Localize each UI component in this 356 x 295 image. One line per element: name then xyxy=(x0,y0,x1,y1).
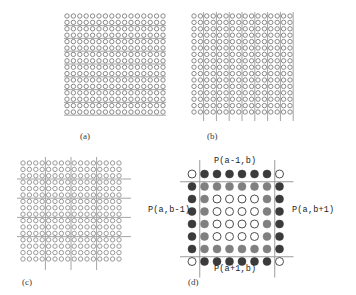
panel-d-caption: (d) xyxy=(188,277,199,287)
panel-a-caption: (a) xyxy=(80,131,90,141)
label-p-a-minus-1-b: P(a-1,b) xyxy=(214,156,256,166)
figure-container: (a) (b) (c) (d) P(a-1,b) P(a,b-1) P(a,b+… xyxy=(0,0,356,295)
panel-c-lattice-block-partitions xyxy=(18,158,142,276)
panel-a-svg xyxy=(63,12,173,122)
panel-a-lattice-horizontal-partitions xyxy=(63,12,173,122)
panel-d-svg xyxy=(186,168,302,272)
panel-d-block-detail xyxy=(186,168,302,272)
panel-b-svg xyxy=(190,12,300,134)
panel-b-caption: (b) xyxy=(207,131,218,141)
panel-c-caption: (c) xyxy=(22,277,32,287)
label-p-a-plus-1-b: P(a+1,b) xyxy=(214,264,256,274)
label-p-a-b-plus-1: P(a,b+1) xyxy=(292,205,334,215)
panel-c-svg xyxy=(18,158,142,276)
panel-b-lattice-vertical-partitions xyxy=(190,12,300,134)
label-p-a-b-minus-1: P(a,b-1) xyxy=(148,205,190,215)
